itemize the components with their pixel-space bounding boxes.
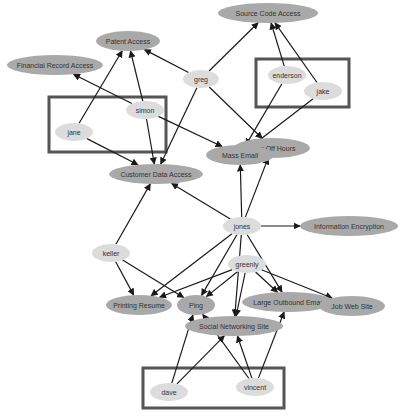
edge-jones-to-customer-data-access	[172, 183, 231, 219]
node-label: keller	[103, 250, 120, 257]
node-ping[interactable]: Ping	[177, 295, 215, 315]
edge-simon-to-mass-email	[158, 116, 222, 146]
node-label: Customer Data Access	[120, 171, 192, 178]
node-label: Patent Access	[106, 38, 151, 45]
edge-keller-to-printing-resume	[116, 262, 134, 295]
node-greenly[interactable]: greenly	[228, 255, 266, 273]
node-label: jones	[233, 223, 251, 231]
node-label: simon	[136, 107, 155, 114]
node-label: Mass Email	[222, 152, 259, 159]
edge-greenly-to-printing-resume	[160, 270, 233, 298]
node-label: greenly	[236, 261, 259, 269]
node-financial-record-access[interactable]: Financial Record Access	[7, 55, 103, 75]
node-jane[interactable]: jane	[55, 123, 93, 141]
node-label: Source Code Access	[236, 10, 301, 17]
node-dave[interactable]: dave	[150, 383, 188, 401]
node-jake[interactable]: jake	[304, 82, 342, 100]
edge-greenly-to-ping	[206, 272, 237, 297]
node-job-web-site[interactable]: Job Web Site	[319, 296, 385, 316]
node-patent-access[interactable]: Patent Access	[96, 31, 160, 51]
edge-jones-to-mass-email	[240, 165, 241, 217]
edge-jones-to-off-hours	[245, 158, 268, 217]
node-label: Social Networking Site	[199, 323, 269, 331]
graph-canvas: Source Code AccessPatent AccessFinancial…	[0, 0, 401, 416]
node-label: Ping	[189, 302, 203, 310]
node-label: Large Outbound Ema¹	[253, 299, 323, 307]
groups-layer	[49, 59, 349, 408]
node-enderson[interactable]: enderson	[268, 66, 306, 84]
node-label: dave	[161, 389, 176, 396]
edge-simon-to-customer-data-access	[147, 119, 155, 164]
edge-greg-to-source-code-access	[209, 23, 258, 71]
node-label: greg	[194, 76, 208, 84]
node-label: enderson	[272, 72, 301, 79]
node-jones[interactable]: jones	[223, 217, 261, 235]
node-customer-data-access[interactable]: Customer Data Access	[109, 164, 203, 184]
edge-simon-to-financial-record-access	[74, 74, 132, 103]
edge-keller-to-customer-data-access	[116, 184, 150, 244]
node-label: vincent	[244, 384, 266, 391]
node-source-code-access[interactable]: Source Code Access	[218, 3, 318, 23]
edge-greg-to-patent-access	[145, 50, 189, 73]
node-social-networking-site[interactable]: Social Networking Site	[185, 316, 283, 336]
edge-simon-to-patent-access	[131, 51, 143, 101]
group-enderson-jake-box	[256, 59, 349, 107]
node-label: Information Encryption	[314, 223, 384, 231]
node-information-encryption[interactable]: Information Encryption	[300, 216, 398, 236]
node-label: Job Web Site	[331, 303, 373, 310]
node-label: jake	[316, 88, 330, 96]
node-label: Printing Resume	[113, 302, 165, 310]
node-greg[interactable]: greg	[183, 70, 219, 88]
node-large-outbound-email[interactable]: Large Outbound Ema¹	[242, 292, 334, 312]
node-printing-resume[interactable]: Printing Resume	[106, 295, 172, 315]
node-label: Financial Record Access	[17, 62, 94, 69]
node-label: jane	[66, 129, 80, 137]
node-simon[interactable]: simon	[126, 101, 164, 119]
node-keller[interactable]: keller	[92, 244, 130, 262]
node-mass-email[interactable]: Mass Email	[206, 145, 274, 165]
node-vincent[interactable]: vincent	[236, 378, 274, 396]
